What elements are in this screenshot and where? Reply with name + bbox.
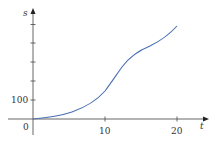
y-tick-label-100: 100 xyxy=(11,95,28,105)
x-axis-arrow-icon xyxy=(203,117,209,122)
x-axis-label: t xyxy=(200,121,204,131)
x-tick-label-20: 20 xyxy=(171,126,183,136)
origin-label: 0 xyxy=(23,122,29,132)
chart: s t 0 100 10 20 xyxy=(0,0,218,144)
y-axis-label: s xyxy=(23,8,28,18)
x-tick-label-10: 10 xyxy=(99,126,111,136)
curve-s-of-t xyxy=(33,26,177,119)
y-axis-arrow-icon xyxy=(31,8,36,14)
